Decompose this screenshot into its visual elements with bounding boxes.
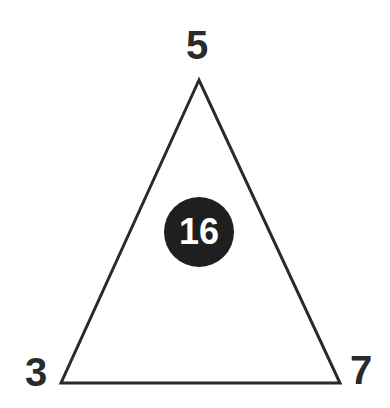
center-number: 16 [159,214,239,250]
right-number: 7 [350,350,372,390]
top-number: 5 [186,25,208,65]
left-number: 3 [25,352,47,392]
